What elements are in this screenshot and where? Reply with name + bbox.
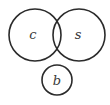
set-b-label: b [53, 73, 61, 88]
venn-diagram: c s b [0, 0, 110, 105]
set-s-label: s [75, 27, 82, 42]
set-c-label: c [29, 27, 37, 42]
